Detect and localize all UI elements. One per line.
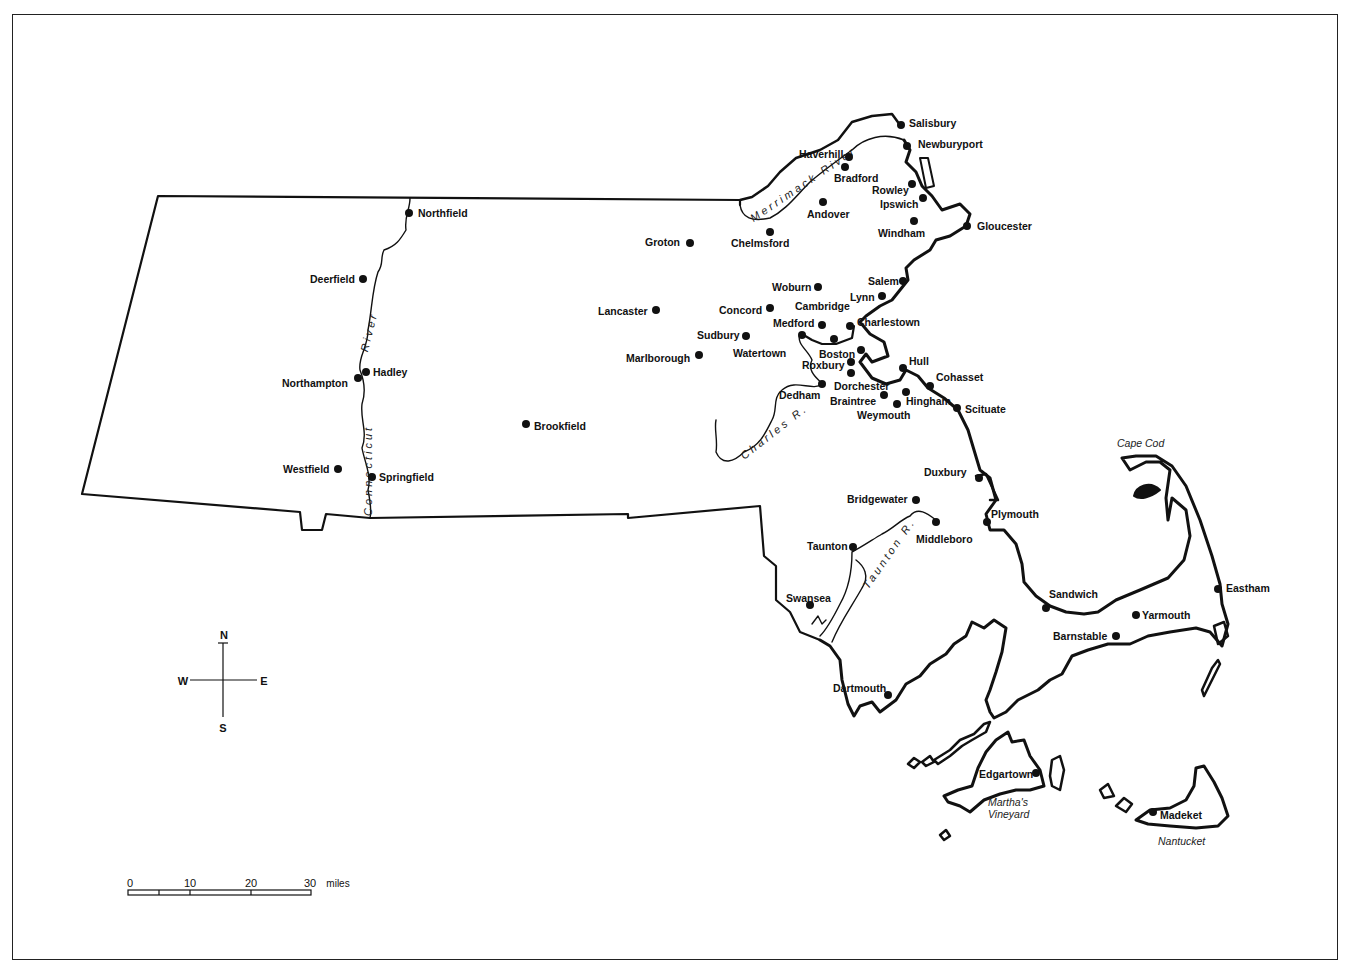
town-marker	[798, 331, 806, 339]
town-label: Northampton	[282, 378, 348, 389]
chappaquiddick	[1050, 756, 1064, 790]
town-label: Edgartown	[979, 769, 1033, 780]
town-label: Chelmsford	[731, 238, 789, 249]
town-label: Ipswich	[880, 199, 919, 210]
town-label: Groton	[645, 237, 680, 248]
town-marker	[849, 543, 857, 551]
town-marker	[847, 369, 855, 377]
town-marker	[845, 153, 853, 161]
cape-cod-hook-inner	[1134, 485, 1160, 498]
town-label: Sandwich	[1049, 589, 1098, 600]
town-label: Cambridge	[795, 301, 850, 312]
town-label: Salisbury	[909, 118, 956, 129]
town-marker	[522, 420, 530, 428]
town-label: Madeket	[1160, 810, 1202, 821]
muskeget-island	[1116, 798, 1132, 812]
town-label: Andover	[807, 209, 850, 220]
town-marker	[878, 292, 886, 300]
massachusetts-map	[0, 0, 1351, 970]
town-label: Weymouth	[857, 410, 910, 421]
town-label: Brookfield	[534, 421, 586, 432]
scale-tick-30: 30	[304, 877, 316, 889]
town-label: Hingham	[906, 396, 951, 407]
town-marker	[818, 321, 826, 329]
town-label: Dorchester	[834, 381, 889, 392]
town-marker	[846, 322, 854, 330]
town-marker	[362, 368, 370, 376]
town-marker	[819, 198, 827, 206]
town-label: Dedham	[779, 390, 820, 401]
town-label: Lynn	[850, 292, 875, 303]
town-label: Windham	[878, 228, 925, 239]
town-label: Middleboro	[916, 534, 973, 545]
connecticut-river-label: Connecticut	[362, 425, 374, 516]
pleasant-bay	[1214, 622, 1228, 644]
town-marker	[652, 306, 660, 314]
town-marker	[1112, 632, 1120, 640]
town-marker	[926, 382, 934, 390]
tuckernuck-island	[1100, 784, 1114, 798]
town-label: Woburn	[772, 282, 811, 293]
town-label: Lancaster	[598, 306, 648, 317]
island-small-1	[908, 758, 920, 768]
town-marker	[1042, 604, 1050, 612]
town-marker	[953, 404, 961, 412]
town-marker	[1132, 611, 1140, 619]
nantucket-label: Nantucket	[1158, 835, 1205, 847]
town-label: Braintree	[830, 396, 876, 407]
town-label: Scituate	[965, 404, 1006, 415]
town-marker	[814, 283, 822, 291]
town-marker	[742, 332, 750, 340]
town-label: Bridgewater	[847, 494, 908, 505]
town-marker	[983, 518, 991, 526]
town-marker	[880, 391, 888, 399]
marthas-vineyard-label-line1: Martha's	[988, 796, 1028, 808]
town-marker	[963, 222, 971, 230]
compass-west: W	[178, 675, 188, 687]
town-label: Newburyport	[918, 139, 983, 150]
town-label: Dartmouth	[833, 683, 886, 694]
town-marker	[766, 228, 774, 236]
town-label: Gloucester	[977, 221, 1032, 232]
town-marker	[975, 474, 983, 482]
town-label: Salem	[868, 276, 899, 287]
town-label: Eastham	[1226, 583, 1270, 594]
town-marker	[857, 346, 865, 354]
town-label: Cohasset	[936, 372, 983, 383]
town-label: Hull	[909, 356, 929, 367]
town-label: Yarmouth	[1142, 610, 1190, 621]
town-label: Westfield	[283, 464, 329, 475]
town-marker	[1214, 585, 1222, 593]
town-label: Barnstable	[1053, 631, 1107, 642]
mount-hope-bay-detail	[812, 616, 826, 624]
town-marker	[830, 335, 838, 343]
scale-unit: miles	[326, 878, 349, 889]
scale-tick-0: 0	[127, 877, 133, 889]
town-marker	[903, 142, 911, 150]
marthas-vineyard-label-line2: Vineyard	[988, 808, 1029, 820]
compass-east: E	[260, 675, 267, 687]
scale-tick-10: 10	[184, 877, 196, 889]
town-marker	[818, 380, 826, 388]
town-label: Bradford	[834, 173, 878, 184]
town-marker	[897, 121, 905, 129]
island-small-2	[922, 756, 934, 766]
town-marker	[908, 180, 916, 188]
town-label: Marlborough	[626, 353, 690, 364]
town-label: Concord	[719, 305, 762, 316]
town-marker	[405, 209, 413, 217]
town-marker	[841, 163, 849, 171]
town-marker	[847, 358, 855, 366]
town-label: Haverhill	[799, 149, 843, 160]
town-marker	[899, 364, 907, 372]
town-marker	[1149, 808, 1157, 816]
town-label: Roxbury	[802, 360, 845, 371]
town-label: Medford	[773, 318, 814, 329]
town-marker	[686, 239, 694, 247]
town-label: Hadley	[373, 367, 407, 378]
town-label: Charlestown	[857, 317, 920, 328]
town-label: Plymouth	[991, 509, 1039, 520]
town-marker	[766, 304, 774, 312]
cape-cod-label: Cape Cod	[1117, 437, 1164, 449]
town-marker	[695, 351, 703, 359]
